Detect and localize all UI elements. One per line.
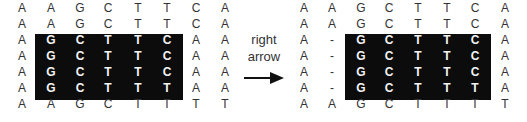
nucleotide-cell: - [322, 64, 342, 80]
nucleotide-cell: T [408, 48, 428, 64]
nucleotide-cell: A [294, 32, 314, 48]
nucleotide-cell: A [495, 64, 515, 80]
nucleotide-cell: G [351, 0, 371, 16]
nucleotide-cell: A [495, 0, 515, 16]
nucleotide-cell: G [41, 80, 61, 96]
nucleotide-cell: A [12, 80, 32, 96]
nucleotide-cell: T [437, 16, 457, 32]
nucleotide-cell: A [215, 0, 235, 16]
nucleotide-cell: T [437, 96, 457, 112]
nucleotide-cell: C [70, 32, 90, 48]
nucleotide-cell: A [12, 48, 32, 64]
nucleotide-cell: A [215, 48, 235, 64]
nucleotide-cell: T [437, 80, 457, 96]
nucleotide-cell: A [294, 0, 314, 16]
nucleotide-cell: A [294, 96, 314, 112]
nucleotide-cell: C [70, 64, 90, 80]
nucleotide-cell: T [157, 16, 177, 32]
nucleotide-cell: A [41, 96, 61, 112]
nucleotide-cell: A [12, 16, 32, 32]
nucleotide-cell: C [157, 48, 177, 64]
nucleotide-cell: A [294, 48, 314, 64]
nucleotide-cell: T [408, 96, 428, 112]
nucleotide-cell: C [465, 16, 485, 32]
nucleotide-cell: T [186, 96, 206, 112]
nucleotide-cell: T [465, 96, 485, 112]
nucleotide-cell: A [294, 80, 314, 96]
nucleotide-cell: A [215, 16, 235, 32]
nucleotide-cell: A [186, 32, 206, 48]
nucleotide-cell: T [98, 64, 118, 80]
nucleotide-cell: - [322, 80, 342, 96]
nucleotide-cell: G [41, 48, 61, 64]
nucleotide-cell: G [351, 48, 371, 64]
nucleotide-cell: C [379, 80, 399, 96]
nucleotide-cell: A [41, 16, 61, 32]
nucleotide-cell: G [41, 32, 61, 48]
nucleotide-cell: C [465, 48, 485, 64]
nucleotide-cell: A [495, 48, 515, 64]
nucleotide-cell: T [98, 48, 118, 64]
nucleotide-cell: A [322, 96, 342, 112]
nucleotide-cell: T [408, 64, 428, 80]
nucleotide-cell: A [186, 64, 206, 80]
nucleotide-cell: T [157, 80, 177, 96]
nucleotide-cell: T [157, 96, 177, 112]
nucleotide-cell: G [351, 80, 371, 96]
nucleotide-cell: T [437, 48, 457, 64]
nucleotide-cell: T [128, 0, 148, 16]
nucleotide-cell: C [465, 32, 485, 48]
nucleotide-cell: T [128, 32, 148, 48]
nucleotide-cell: T [98, 32, 118, 48]
nucleotide-cell: - [322, 48, 342, 64]
nucleotide-cell: T [408, 0, 428, 16]
nucleotide-cell: C [98, 0, 118, 16]
nucleotide-cell: A [215, 64, 235, 80]
nucleotide-cell: T [437, 32, 457, 48]
arrow-right-icon [244, 71, 286, 85]
nucleotide-cell: A [41, 0, 61, 16]
nucleotide-cell: T [437, 64, 457, 80]
nucleotide-cell: C [379, 64, 399, 80]
nucleotide-cell: A [495, 16, 515, 32]
nucleotide-cell: T [215, 96, 235, 112]
nucleotide-cell: C [98, 96, 118, 112]
nucleotide-cell: G [351, 16, 371, 32]
nucleotide-cell: T [408, 16, 428, 32]
nucleotide-cell: G [70, 0, 90, 16]
nucleotide-cell: G [351, 32, 371, 48]
nucleotide-cell: A [215, 80, 235, 96]
nucleotide-cell: C [465, 64, 485, 80]
nucleotide-cell: C [70, 80, 90, 96]
nucleotide-cell: A [495, 80, 515, 96]
nucleotide-cell: A [12, 96, 32, 112]
nucleotide-cell: C [465, 0, 485, 16]
nucleotide-cell: C [379, 96, 399, 112]
nucleotide-cell: C [70, 48, 90, 64]
nucleotide-cell: C [379, 32, 399, 48]
nucleotide-cell: A [495, 32, 515, 48]
nucleotide-cell: T [157, 0, 177, 16]
nucleotide-cell: T [465, 80, 485, 96]
nucleotide-cell: T [128, 16, 148, 32]
nucleotide-cell: T [408, 80, 428, 96]
nucleotide-cell: - [322, 32, 342, 48]
nucleotide-cell: A [294, 16, 314, 32]
nucleotide-cell: C [157, 32, 177, 48]
nucleotide-cell: C [98, 16, 118, 32]
nucleotide-cell: T [408, 32, 428, 48]
transition-label-line2: arrow [234, 49, 294, 64]
transition-label-line1: right [234, 32, 294, 47]
nucleotide-cell: T [128, 48, 148, 64]
nucleotide-cell: A [12, 0, 32, 16]
nucleotide-cell: C [186, 0, 206, 16]
nucleotide-cell: T [128, 64, 148, 80]
nucleotide-cell: C [379, 16, 399, 32]
nucleotide-cell: T [98, 80, 118, 96]
nucleotide-cell: A [294, 64, 314, 80]
nucleotide-cell: T [128, 96, 148, 112]
nucleotide-cell: A [12, 32, 32, 48]
nucleotide-cell: G [41, 64, 61, 80]
nucleotide-cell: C [379, 0, 399, 16]
nucleotide-cell: A [322, 16, 342, 32]
